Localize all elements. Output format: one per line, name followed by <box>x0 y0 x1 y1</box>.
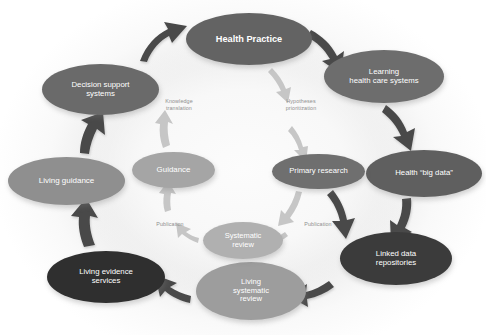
node-living-systematic-review-label: Living systematic review <box>200 278 302 304</box>
arrow-living-guidance-to-decision-support-systems <box>80 112 105 154</box>
node-health-practice[interactable]: Health Practice <box>186 13 312 65</box>
node-living-guidance[interactable]: Living guidance <box>8 157 125 205</box>
node-health-big-data[interactable]: Health “big data” <box>366 150 482 197</box>
node-health-big-data-label: Health “big data” <box>370 169 478 178</box>
node-living-guidance-label: Living guidance <box>12 177 121 186</box>
node-guidance[interactable]: Guidance <box>132 152 215 188</box>
node-learning-health-care-systems[interactable]: Learning health care systems <box>324 50 444 103</box>
node-primary-research-label: Primary research <box>276 167 361 176</box>
node-health-practice-label: Health Practice <box>190 34 308 44</box>
arrow-decision-support-to-health-practice <box>140 22 187 62</box>
arrow-learning-health-care-systems-to-health-big-data <box>382 105 415 151</box>
node-systematic-review[interactable]: Systematic review <box>203 222 283 259</box>
node-linked-data-repositories[interactable]: Linked data repositories <box>340 232 452 285</box>
node-living-evidence-services[interactable]: Living evidence services <box>47 251 165 303</box>
arrow-guidance-to-knowledge-translation <box>155 110 173 148</box>
arrow-primary-research-to-linked-data-repositories <box>327 190 355 239</box>
node-primary-research[interactable]: Primary research <box>272 154 365 189</box>
node-systematic-review-label: Systematic review <box>207 232 279 249</box>
link-label-publication-right: Publication <box>293 221 343 228</box>
link-label-hypotheses-prioritization: Hypotheses prioritization <box>272 98 330 112</box>
node-guidance-label: Guidance <box>136 166 211 175</box>
link-label-publication-left: Publication <box>145 221 195 228</box>
link-label-knowledge-translation: Knowledge translation <box>150 98 208 112</box>
arrow-living-evidence-services-to-living-guidance <box>71 198 98 247</box>
node-decision-support-systems[interactable]: Decision support systems <box>42 64 159 115</box>
diagram-canvas: Health Practice Learning health care sys… <box>0 0 486 335</box>
node-decision-support-systems-label: Decision support systems <box>46 81 155 98</box>
node-learning-health-care-systems-label: Learning health care systems <box>328 68 440 85</box>
node-living-evidence-services-label: Living evidence services <box>51 268 161 285</box>
node-living-systematic-review[interactable]: Living systematic review <box>196 262 306 320</box>
node-linked-data-repositories-label: Linked data repositories <box>344 250 448 267</box>
